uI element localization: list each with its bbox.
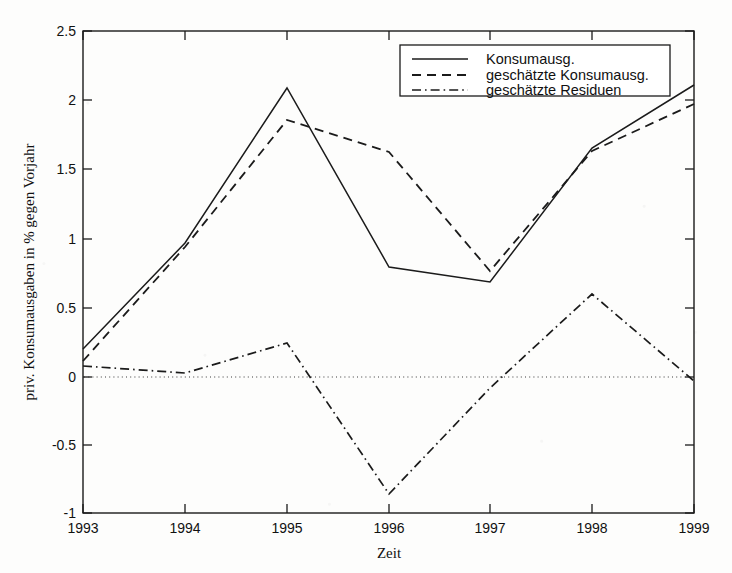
y-tick-label: 1: [68, 231, 76, 247]
y-axis-title: priv. Konsumausgaben in % gegen Vorjahr: [21, 144, 37, 401]
y-tick-label: 2.5: [57, 23, 77, 39]
legend-label-geschaetzte-konsumausg: geschätzte Konsumausg.: [486, 67, 649, 83]
x-tick-label: 1994: [169, 520, 200, 536]
y-tick-label: 2: [68, 92, 76, 108]
y-tick-label: -0.5: [52, 437, 76, 453]
x-tick-label: 1996: [373, 520, 404, 536]
chart-legend: Konsumausg. geschätzte Konsumausg. gesch…: [400, 45, 670, 98]
x-tick-label: 1993: [67, 520, 98, 536]
x-axis-ticks: [83, 31, 694, 513]
x-tick-label: 1998: [576, 520, 607, 536]
series-line-geschaetzte-residuen: [83, 294, 694, 494]
x-tick-label: 1995: [271, 520, 302, 536]
figure-container: 2.5 2 1.5 1 0.5 0 -0.5 -1 1993 1994 1995…: [0, 0, 732, 573]
x-tick-labels: 1993 1994 1995 1996 1997 1998 1999: [67, 520, 709, 536]
x-axis-title: Zeit: [377, 545, 402, 561]
y-tick-labels: 2.5 2 1.5 1 0.5 0 -0.5 -1: [52, 23, 76, 521]
series-line-konsumausg: [83, 85, 694, 349]
y-tick-label: -1: [64, 505, 77, 521]
y-tick-label: 0: [68, 369, 76, 385]
y-axis-ticks: [83, 31, 694, 513]
y-tick-label: 0.5: [57, 300, 77, 316]
plot-frame: [83, 31, 694, 513]
x-tick-label: 1999: [678, 520, 709, 536]
x-tick-label: 1997: [474, 520, 505, 536]
legend-label-konsumausg: Konsumausg.: [486, 51, 575, 67]
y-tick-label: 1.5: [57, 161, 77, 177]
legend-label-geschaetzte-residuen: geschätzte Residuen: [486, 82, 621, 98]
series-line-geschaetzte-konsumausg: [83, 104, 694, 361]
line-chart: 2.5 2 1.5 1 0.5 0 -0.5 -1 1993 1994 1995…: [0, 0, 732, 573]
